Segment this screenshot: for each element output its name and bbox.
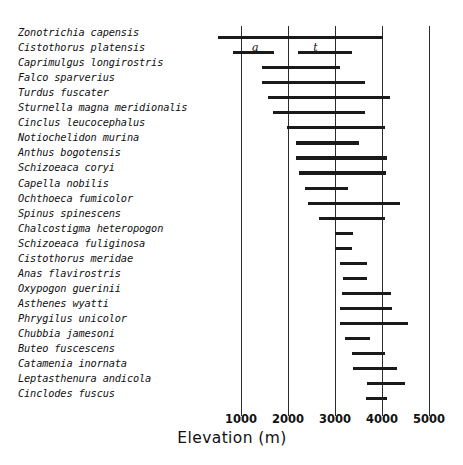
gridline-4000 [382, 26, 383, 416]
range-bar [353, 367, 397, 370]
gridline-5000 [429, 26, 430, 416]
axis-tick-4000 [382, 398, 383, 412]
axis-tick-label: 2000 [272, 412, 304, 426]
range-bar [319, 217, 385, 220]
range-bar [299, 171, 386, 174]
gridline-2000 [288, 26, 289, 416]
elevation-range-chart: Zonotrichia capensisCistothorus platensi… [0, 0, 463, 465]
axis-tick-label: 1000 [225, 412, 257, 426]
range-bar [305, 187, 348, 190]
range-bar [342, 292, 391, 295]
range-bar [298, 51, 352, 54]
range-bar [296, 156, 387, 159]
plot-area: at [0, 0, 463, 420]
annotation-letter-t: t [313, 41, 317, 54]
range-bar [340, 307, 392, 310]
range-bar [287, 126, 385, 129]
range-bar [296, 141, 359, 144]
range-bar [340, 322, 408, 325]
range-bar [268, 96, 390, 99]
axis-tick-label: 3000 [319, 412, 351, 426]
range-bar [262, 66, 340, 69]
range-bar [335, 247, 352, 250]
range-bar [345, 337, 370, 340]
range-bar [340, 262, 367, 265]
x-axis: Elevation (m) 10002000300040005000 [0, 398, 463, 465]
axis-tick-2000 [288, 398, 289, 412]
axis-tick-1000 [241, 398, 242, 412]
range-bar [273, 111, 365, 114]
range-bar [352, 352, 385, 355]
range-bar [262, 81, 365, 84]
gridline-1000 [241, 26, 242, 416]
range-bar [308, 202, 400, 205]
axis-tick-label: 5000 [413, 412, 445, 426]
range-bar [218, 36, 383, 39]
axis-tick-5000 [429, 398, 430, 412]
annotation-letter-a: a [252, 41, 259, 54]
range-bar [335, 232, 353, 235]
x-axis-title: Elevation (m) [177, 429, 286, 447]
range-bar [367, 382, 405, 385]
gridline-3000 [335, 26, 336, 416]
range-bar [343, 277, 367, 280]
axis-tick-label: 4000 [366, 412, 398, 426]
axis-tick-3000 [335, 398, 336, 412]
